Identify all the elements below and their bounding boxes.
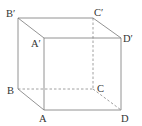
label-B-prime: B′ [6,8,15,19]
label-C-prime: C′ [94,7,103,18]
label-A-prime: A′ [31,38,41,49]
label-A: A [39,113,47,124]
edge-B-A [18,89,44,110]
edge-Bp-Ap [18,18,44,38]
label-D: D [121,113,129,124]
edge-Cp-Dp [93,18,121,38]
label-C: C [97,83,104,94]
cube-diagram: B′ C′ A′ D′ B C A D [0,0,142,126]
label-B: B [7,85,14,96]
label-D-prime: D′ [123,33,133,44]
